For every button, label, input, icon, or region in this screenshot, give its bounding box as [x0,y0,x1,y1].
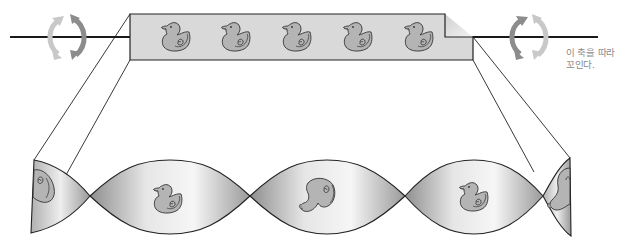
twisted-ribbon-diagram [0,0,621,245]
flat-duck-strip [130,14,473,60]
twist-axis-label-line2: 꼬인다. [566,59,615,71]
twisted-duck-ribbon [31,158,571,236]
twist-axis-label-line1: 이 축을 따라 [566,47,615,59]
twist-axis-label: 이 축을 따라 꼬인다. [566,47,615,71]
